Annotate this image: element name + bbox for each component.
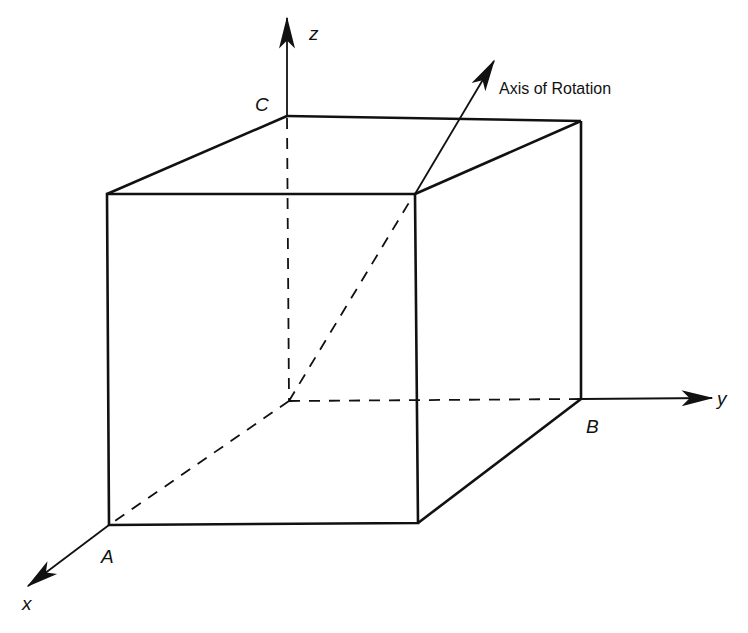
- y-axis: [581, 398, 712, 399]
- point-label-a: A: [101, 547, 114, 566]
- hidden-edge-x: [109, 401, 289, 525]
- axes: [28, 18, 712, 586]
- bottom-edge-right: [418, 399, 581, 523]
- x-axis-label: x: [22, 594, 32, 613]
- front-face: [107, 194, 418, 525]
- y-axis-label: y: [717, 389, 727, 408]
- hidden-edge-y: [289, 399, 580, 401]
- x-axis: [28, 525, 109, 586]
- point-label-c: C: [255, 95, 269, 114]
- hidden-edges: [109, 118, 580, 525]
- top-edge-right: [415, 121, 581, 194]
- rotation-axis: [415, 61, 494, 194]
- hidden-diagonal: [289, 196, 413, 401]
- point-label-b: B: [586, 417, 599, 436]
- top-edge-left: [107, 116, 287, 194]
- top-edge-back: [287, 116, 581, 121]
- cube-diagram: [0, 0, 748, 633]
- cube-visible-edges: [107, 116, 581, 525]
- axis-of-rotation-label: Axis of Rotation: [499, 81, 611, 97]
- z-axis-label: z: [309, 24, 319, 43]
- hidden-edge-vertical: [287, 118, 289, 401]
